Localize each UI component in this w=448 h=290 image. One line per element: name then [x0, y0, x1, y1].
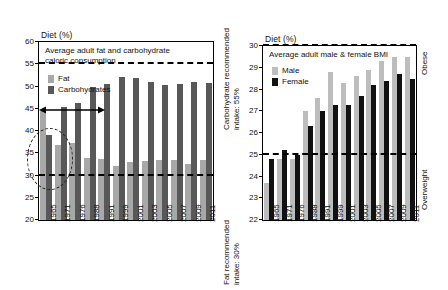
y-tick-45: 45	[12, 103, 34, 112]
left-plot-area	[38, 41, 214, 221]
y-tick-27: 27	[236, 106, 258, 115]
bar-carbohydrates-2007	[177, 84, 183, 220]
bar-female-2001	[346, 105, 351, 220]
y-tick-24: 24	[236, 171, 258, 180]
y-tickmark-50	[35, 86, 38, 87]
legend-label-fat: Fat	[58, 74, 70, 83]
x-tick-1991: 1991	[323, 204, 332, 222]
y-tickmark-26	[259, 132, 262, 133]
x-tick-2001: 2001	[136, 204, 145, 222]
bar-female-2003	[359, 96, 364, 220]
y-tickmark-28	[259, 89, 262, 90]
x-tick-1971: 1971	[63, 204, 72, 222]
legend-label-male: Male	[282, 66, 299, 75]
y-tick-25: 25	[236, 149, 258, 158]
y-tick-29: 29	[236, 62, 258, 71]
y-tickmark-40	[35, 130, 38, 131]
highlight-ellipse-annotation	[27, 128, 73, 190]
overweight-edge-label: Overweight	[420, 170, 429, 210]
y-tick-28: 28	[236, 84, 258, 93]
y-tick-26: 26	[236, 128, 258, 137]
x-tick-2009: 2009	[399, 204, 408, 222]
y-tick-20: 20	[12, 215, 34, 224]
legend-item-fat: Fat	[48, 74, 110, 83]
x-tick-1999: 1999	[336, 204, 345, 222]
x-tick-2003: 2003	[150, 204, 159, 222]
x-tick-1999: 1999	[121, 204, 130, 222]
panel-diet: Diet (%) Average adult fat and carbohydr…	[0, 0, 224, 290]
y-tickmark-25	[35, 197, 38, 198]
y-tick-23: 23	[236, 193, 258, 202]
x-tick-1976: 1976	[78, 204, 87, 222]
x-tick-2005: 2005	[165, 204, 174, 222]
reference-line-30	[263, 44, 416, 46]
y-tickmark-29	[259, 67, 262, 68]
legend-swatch-icon-female	[272, 78, 278, 86]
y-tick-22: 22	[236, 215, 258, 224]
bar-carbohydrates-2011	[206, 83, 212, 220]
y-tickmark-60	[35, 41, 38, 42]
bar-female-2007	[384, 81, 389, 220]
y-tick-60: 60	[12, 37, 34, 46]
x-tick-2001: 2001	[348, 204, 357, 222]
y-tickmark-45	[35, 108, 38, 109]
x-tick-1988: 1988	[310, 204, 319, 222]
bar-female-2009	[397, 74, 402, 220]
legend-label-carbohydrates: Carbohydrates	[58, 85, 110, 94]
bar-carbohydrates-2003	[148, 82, 154, 220]
y-tick-25: 25	[12, 192, 34, 201]
bar-carbohydrates-2009	[191, 82, 197, 220]
y-tickmark-24	[259, 176, 262, 177]
x-tick-1965: 1965	[272, 204, 281, 222]
left-plot-caption: Average adult fat and carbohydrate calor…	[45, 46, 195, 65]
bar-female-2011	[410, 79, 415, 220]
y-tick-40: 40	[12, 126, 34, 135]
bar-carbohydrates-2005	[162, 85, 168, 220]
y-tickmark-25	[259, 154, 262, 155]
range-arrow-annotation	[39, 104, 105, 116]
y-tickmark-20	[35, 219, 38, 220]
bar-carbohydrates-1976	[75, 103, 81, 220]
reference-line-25	[263, 153, 416, 155]
bar-carbohydrates-1999	[119, 77, 125, 220]
y-tickmark-30	[259, 45, 262, 46]
y-tickmark-22	[259, 219, 262, 220]
x-tick-1991: 1991	[107, 204, 116, 222]
x-tick-2007: 2007	[179, 204, 188, 222]
x-tick-2005: 2005	[374, 204, 383, 222]
legend-label-female: Female	[282, 77, 309, 86]
bar-carbohydrates-2001	[133, 78, 139, 220]
right-plot-caption: Average adult male & female BMI	[269, 50, 414, 60]
y-tick-50: 50	[12, 81, 34, 90]
right-legend: MaleFemale	[272, 66, 309, 88]
y-tickmark-27	[259, 110, 262, 111]
panel-bmi: Diet (%) Average adult male & female BMI…	[224, 0, 448, 290]
y-tick-55: 55	[12, 59, 34, 68]
left-axis-title: Diet (%)	[41, 30, 73, 40]
x-tick-2011: 2011	[208, 205, 217, 222]
legend-item-carbohydrates: Carbohydrates	[48, 85, 110, 94]
obese-edge-label: Obese	[420, 51, 429, 75]
y-tickmark-23	[259, 197, 262, 198]
x-tick-2003: 2003	[361, 204, 370, 222]
legend-item-female: Female	[272, 77, 309, 86]
legend-swatch-icon-carbohydrates	[48, 86, 54, 94]
x-tick-1976: 1976	[297, 204, 306, 222]
x-tick-1965: 1965	[49, 204, 58, 222]
x-tick-2009: 2009	[194, 204, 203, 222]
legend-swatch-icon-male	[272, 67, 278, 75]
figure-container: Diet (%) Average adult fat and carbohydr…	[0, 0, 448, 290]
bar-carbohydrates-1991	[104, 84, 110, 220]
x-tick-1988: 1988	[92, 204, 101, 222]
x-tick-2007: 2007	[387, 204, 396, 222]
y-tick-30: 30	[236, 41, 258, 50]
bar-female-1999	[333, 105, 338, 220]
x-tick-1971: 1971	[285, 204, 294, 222]
left-legend: FatCarbohydrates	[48, 74, 110, 96]
y-tickmark-55	[35, 63, 38, 64]
legend-swatch-icon-fat	[48, 75, 54, 83]
right-axis-title: Diet (%)	[265, 34, 297, 44]
legend-item-male: Male	[272, 66, 309, 75]
